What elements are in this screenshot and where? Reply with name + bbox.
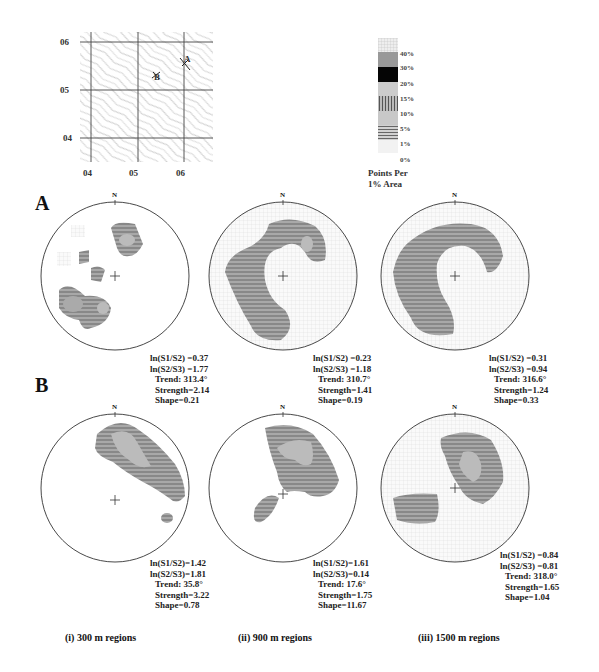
caption-300m: (i) 300 m regions [65,632,136,643]
stereonet-b-1500m: N [379,412,531,568]
map-point-b-label: B [154,72,160,82]
stats-a-900m: ln(S1/S2) =0.23 ln(S2/S3) =1.18 Trend: 3… [313,353,372,406]
shape: Shape=0.33 [489,395,548,406]
ln-s1-s2: ln(S1/S2) =0.31 [489,353,548,364]
ln-s2-s3: ln(S2/S3)=1.81 [150,569,209,580]
ln-s2-s3: ln(S2/S3) =0.81 [500,561,559,572]
ln-s2-s3: ln(S2/S3) =0.94 [489,364,548,375]
north-label: N [452,403,457,411]
map-y-tick-04: 04 [63,133,72,143]
stereonet-a-900m: N [207,200,359,356]
stereonet-a-1500m: N [379,200,531,356]
contour-map-graphic [80,32,213,162]
map-x-tick-05: 05 [129,168,138,178]
shape: Shape=1.04 [500,592,559,603]
trend: Trend: 316.6° [489,374,548,385]
stereonet-a-300m-graphic [39,200,191,352]
stereonet-b-1500m-graphic [379,412,531,564]
legend-swatches [378,38,398,163]
trend: Trend: 17.6° [313,579,372,590]
ln-s1-s2: ln(S1/S2) =0.37 [150,353,209,364]
trend: Trend: 313.4° [150,374,209,385]
stereonet-a-300m: N [39,200,191,356]
ln-s1-s2: ln(S1/S2)=1.42 [150,558,209,569]
trend: Trend: 310.7° [313,374,372,385]
ln-s2-s3: ln(S2/S3)=0.14 [313,569,372,580]
stats-a-300m: ln(S1/S2) =0.37 ln(S2/S3) =1.77 Trend: 3… [150,353,209,406]
map-y-tick-05: 05 [60,85,69,95]
trend: Trend: 35.8° [150,579,209,590]
caption-900m: (ii) 900 m regions [238,632,312,643]
stats-a-1500m: ln(S1/S2) =0.31 ln(S2/S3) =0.94 Trend: 3… [489,353,548,406]
ln-s2-s3: ln(S2/S3) =1.18 [313,364,372,375]
legend-level-10: 10% [400,110,414,118]
ln-s2-s3: ln(S2/S3) =1.77 [150,364,209,375]
legend-caption-line2: 1% Area [368,179,408,190]
north-label: N [112,403,117,411]
topographic-map [80,32,213,162]
map-point-a-label: A [184,54,191,64]
strength: Strength=1.24 [489,385,548,396]
ln-s1-s2: ln(S1/S2) =0.23 [313,353,372,364]
north-label: N [112,191,117,199]
map-y-tick-06: 06 [60,37,69,47]
legend-level-0: 0% [400,156,411,164]
map-x-tick-04: 04 [83,168,92,178]
north-label: N [452,191,457,199]
legend-level-40: 40% [400,50,414,58]
north-label: N [280,403,285,411]
shape: Shape=0.21 [150,395,209,406]
stereonet-a-900m-graphic [207,200,359,352]
legend-level-15: 15% [400,95,414,103]
row-label-b: B [35,374,48,397]
north-label: N [280,191,285,199]
density-legend [378,38,398,167]
ln-s1-s2: ln(S1/S2) =0.84 [500,550,559,561]
stats-b-300m: ln(S1/S2)=1.42 ln(S2/S3)=1.81 Trend: 35.… [150,558,209,611]
stereonet-b-300m-graphic [39,412,191,564]
stereonet-a-1500m-graphic [379,200,531,352]
legend-level-30: 30% [400,64,414,72]
map-x-tick-06: 06 [176,168,185,178]
legend-level-1: 1% [400,140,411,148]
strength: Strength=3.22 [150,590,209,601]
legend-caption-line1: Points Per [368,168,408,179]
strength: Strength=1.65 [500,582,559,593]
trend: Trend: 318.0° [500,571,559,582]
strength: Strength=1.41 [313,385,372,396]
strength: Strength=1.75 [313,590,372,601]
stats-b-900m: ln(S1/S2)=1.61 ln(S2/S3)=0.14 Trend: 17.… [313,558,372,611]
shape: Shape=0.78 [150,600,209,611]
legend-level-5: 5% [400,125,411,133]
shape: Shape=0.19 [313,395,372,406]
caption-1500m: (iii) 1500 m regions [418,632,500,643]
stereonet-b-900m: N [207,412,359,568]
legend-level-20: 20% [400,80,414,88]
stereonet-b-300m: N [39,412,191,568]
stats-b-1500m: ln(S1/S2) =0.84 ln(S2/S3) =0.81 Trend: 3… [500,550,559,603]
shape: Shape=11.67 [313,600,372,611]
strength: Strength=2.14 [150,385,209,396]
legend-caption: Points Per 1% Area [368,168,408,190]
ln-s1-s2: ln(S1/S2)=1.61 [313,558,372,569]
stereonet-b-900m-graphic [207,412,359,564]
